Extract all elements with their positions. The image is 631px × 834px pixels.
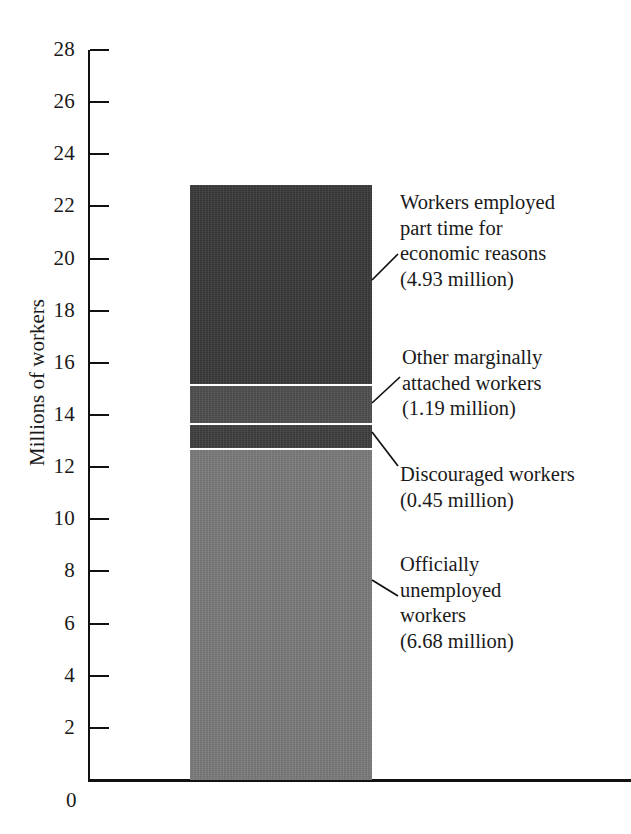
stacked-bar-chart: 282624222018161412108642 0 Millions of w… — [0, 0, 631, 834]
annotation-officially-unemployed: Officially unemployed workers (6.68 mill… — [400, 552, 514, 654]
annotation-part-time-economic: Workers employed part time for economic … — [400, 190, 555, 292]
annotation-discouraged: Discouraged workers (0.45 million) — [400, 462, 575, 513]
annotation-other-marginally-attached: Other marginally attached workers (1.19 … — [402, 345, 542, 422]
